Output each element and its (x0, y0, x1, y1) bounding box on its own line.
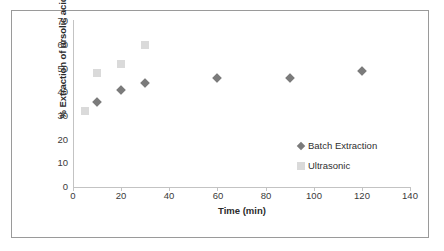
y-tick-label: 50 (28, 64, 68, 74)
data-point-square (93, 69, 101, 77)
chart-figure: % Extraction of ursolic acid Time (min) … (0, 0, 444, 251)
x-axis-tickmark (217, 188, 218, 191)
y-tick-label: 40 (28, 87, 68, 97)
legend-item-label: Ultrasonic (308, 160, 350, 171)
data-point-diamond (212, 73, 222, 83)
square-marker-icon (296, 160, 308, 172)
x-tick-label: 40 (147, 191, 191, 201)
data-point-diamond (285, 73, 295, 83)
data-point-square (81, 107, 89, 115)
x-axis-title: Time (min) (73, 205, 411, 216)
y-tick-label: 70 (28, 16, 68, 26)
x-tick-label: 60 (196, 191, 240, 201)
x-tick-label: 140 (388, 191, 432, 201)
y-tick-label: 30 (28, 111, 68, 121)
y-tick-label: 20 (28, 135, 68, 145)
data-point-diamond (357, 66, 367, 76)
y-tick-label: 10 (28, 158, 68, 168)
x-axis-tickmark (121, 188, 122, 191)
x-axis-tickmark (314, 188, 315, 191)
x-axis-tickmark (169, 188, 170, 191)
x-tick-label: 0 (51, 191, 95, 201)
legend-item-label: Batch Extraction (308, 140, 377, 151)
y-axis-tick-labels: 70 60 50 40 30 20 10 0 (24, 0, 68, 251)
y-tick-label: 60 (28, 40, 68, 50)
x-tick-label: 100 (292, 191, 336, 201)
x-tick-label: 120 (340, 191, 384, 201)
diamond-marker-icon (296, 140, 308, 152)
data-point-diamond (92, 97, 102, 107)
x-axis-tickmark (410, 188, 411, 191)
legend-item-batch-extraction: Batch Extraction (296, 138, 408, 153)
data-point-diamond (116, 85, 126, 95)
data-point-square (141, 41, 149, 49)
legend-item-ultrasonic: Ultrasonic (296, 158, 408, 173)
x-axis-line (73, 187, 411, 188)
x-tick-label: 20 (99, 191, 143, 201)
x-axis-tickmark (362, 188, 363, 191)
data-point-square (117, 60, 125, 68)
x-axis-tickmark (73, 188, 74, 191)
x-axis-tick-labels: 0 20 40 60 80 100 120 140 (0, 191, 444, 205)
data-point-diamond (140, 78, 150, 88)
x-axis-tickmark (266, 188, 267, 191)
x-tick-label: 80 (244, 191, 288, 201)
chart-legend: Batch Extraction Ultrasonic (296, 138, 408, 178)
